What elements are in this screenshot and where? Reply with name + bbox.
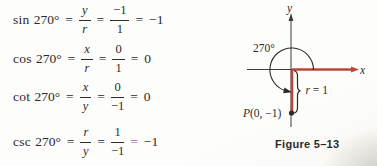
function-name: sin [13, 12, 30, 28]
y-axis-arrowhead-icon [289, 13, 294, 21]
point-label: P(0, −1) [242, 107, 282, 120]
fraction-numerator: y [79, 3, 91, 21]
fraction-substituted-values: −1 1 [110, 3, 129, 37]
unit-circle-270-diagram: y x 270° r = 1 P(0, −1) Figure 5–13 [235, 0, 377, 166]
fraction-substituted-values: 0 −1 [111, 80, 124, 114]
equals-sign: = [99, 51, 107, 67]
equals-sign: = [130, 134, 138, 150]
fraction-numerator: −1 [110, 3, 129, 21]
fraction-ratio-definition: r y [80, 125, 91, 159]
equals-sign: = [66, 89, 74, 105]
equation-result: 0 [144, 51, 151, 67]
equals-sign: = [135, 12, 143, 28]
radius-brace [294, 71, 301, 114]
equation-result: −1 [149, 12, 163, 28]
fraction-ratio-definition: y r [79, 3, 91, 37]
x-axis-arrowhead-icon [351, 67, 359, 73]
fraction-denominator: r [82, 21, 87, 38]
angle-value: 270° [35, 134, 61, 150]
equation-result: −1 [144, 134, 158, 150]
fraction-substituted-values: 0 1 [112, 42, 124, 76]
equals-sign: = [65, 12, 73, 28]
equals-sign: = [97, 12, 105, 28]
point-p-dot [289, 110, 294, 115]
fraction-numerator: 0 [112, 42, 124, 60]
fraction-numerator: r [80, 125, 91, 143]
fraction-denominator: −1 [111, 98, 124, 115]
equation-csc-270: csc 270° = r y = 1 −1 = −1 [13, 125, 158, 159]
function-name: csc [13, 134, 31, 150]
equation-cot-270: cot 270° = x y = 0 −1 = 0 [13, 80, 151, 114]
point-coordinates: (0, −1) [250, 107, 282, 120]
equals-sign: = [67, 134, 75, 150]
fraction-denominator: 1 [117, 21, 123, 38]
angle-label: 270° [253, 42, 275, 54]
equals-sign: = [130, 89, 138, 105]
figure-5-13: y x 270° r = 1 P(0, −1) Figure 5–13 [235, 0, 377, 166]
fraction-denominator: y [83, 98, 89, 115]
fraction-ratio-definition: x r [81, 42, 93, 76]
equals-sign: = [97, 134, 105, 150]
angle-value: 270° [34, 12, 60, 28]
fraction-denominator: 1 [115, 60, 121, 77]
fraction-ratio-definition: x y [80, 80, 92, 114]
equals-sign: = [131, 51, 139, 67]
point-name: P [242, 107, 250, 119]
textbook-page-excerpt: sin 270° = y r = −1 1 = −1 cos 270° = x … [0, 0, 377, 166]
equation-sin-270: sin 270° = y r = −1 1 = −1 [13, 3, 163, 37]
radius-label: r = 1 [306, 84, 329, 96]
fraction-numerator: 1 [111, 125, 123, 143]
fraction-denominator: r [85, 60, 90, 77]
fraction-denominator: −1 [111, 143, 124, 160]
angle-value: 270° [36, 51, 62, 67]
equals-sign: = [68, 51, 76, 67]
fraction-denominator: y [83, 143, 89, 160]
fraction-numerator: x [81, 42, 93, 60]
x-axis-label: x [359, 64, 366, 76]
fraction-numerator: x [80, 80, 92, 98]
equation-result: 0 [144, 89, 151, 105]
equals-sign: = [97, 89, 105, 105]
angle-value: 270° [34, 89, 60, 105]
equation-cos-270: cos 270° = x r = 0 1 = 0 [13, 42, 151, 76]
radius-value: = 1 [310, 84, 328, 96]
fraction-substituted-values: 1 −1 [111, 125, 124, 159]
figure-caption: Figure 5–13 [275, 138, 339, 150]
fraction-numerator: 0 [111, 80, 123, 98]
trig-equations-column: sin 270° = y r = −1 1 = −1 cos 270° = x … [13, 0, 233, 166]
y-axis-label: y [286, 2, 293, 15]
function-name: cot [13, 89, 30, 105]
function-name: cos [13, 51, 32, 67]
